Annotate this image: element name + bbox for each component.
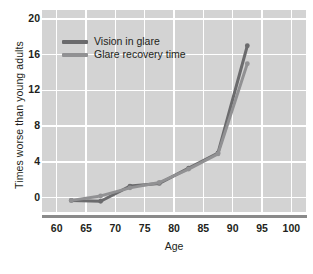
axis-baseline <box>42 215 307 218</box>
y-axis-tick-label: 8 <box>14 119 40 131</box>
y-axis-tick-label: 4 <box>14 155 40 167</box>
y-axis-tick-label: 0 <box>14 191 40 203</box>
x-axis-tick-label: 95 <box>247 222 277 234</box>
data-point-marker <box>245 61 250 66</box>
x-axis-tick-label: 75 <box>130 222 160 234</box>
legend-swatch-vision-in-glare <box>62 40 88 44</box>
series-line <box>71 46 247 202</box>
y-axis-tick-label: 12 <box>14 83 40 95</box>
y-axis-tick-labels: 048121620 <box>12 0 40 274</box>
legend-label-vision-in-glare: Vision in glare <box>94 35 160 47</box>
x-axis-title: Age <box>42 240 306 252</box>
x-axis-tick-label: 100 <box>276 222 306 234</box>
x-axis-tick-label: 60 <box>42 222 72 234</box>
series-line <box>71 64 247 201</box>
x-axis-tick-label: 70 <box>100 222 130 234</box>
x-axis-tick-label: 90 <box>218 222 248 234</box>
x-axis-tick-label: 80 <box>159 222 189 234</box>
legend-item-glare-recovery-time: Glare recovery time <box>62 49 192 62</box>
data-point-marker <box>98 199 103 204</box>
x-axis-tick-labels: 6065707580859095100 <box>42 222 306 238</box>
chart-figure: Times worse than young adults 048121620 … <box>0 0 313 274</box>
chart-legend: Vision in glare Glare recovery time <box>62 36 192 62</box>
legend-swatch-glare-recovery-time <box>62 53 88 57</box>
y-axis-tick-label: 20 <box>14 12 40 24</box>
data-point-marker <box>216 152 221 157</box>
data-point-marker <box>128 185 133 190</box>
data-point-marker <box>98 194 103 199</box>
data-point-marker <box>186 167 191 172</box>
data-point-marker <box>69 198 74 203</box>
legend-label-glare-recovery-time: Glare recovery time <box>94 48 186 60</box>
x-axis-tick-label: 65 <box>71 222 101 234</box>
data-point-marker <box>157 180 162 185</box>
x-axis-tick-label: 85 <box>188 222 218 234</box>
data-point-marker <box>245 43 250 48</box>
y-axis-tick-label: 16 <box>14 48 40 60</box>
